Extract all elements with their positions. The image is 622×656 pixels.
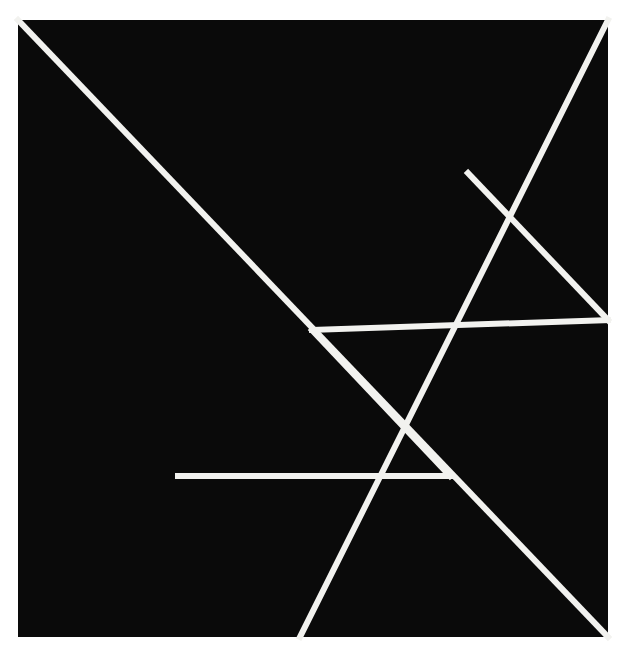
tangram-figure bbox=[0, 0, 622, 656]
